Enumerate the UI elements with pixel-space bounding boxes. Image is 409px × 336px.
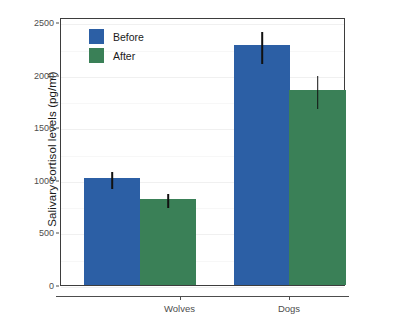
plot-panel: Before After — [60, 18, 345, 286]
x-tick-label-wolves: Wolves — [164, 303, 195, 314]
gridline — [61, 24, 344, 25]
x-tick-label-dogs: Dogs — [278, 303, 300, 314]
y-tick-label: 1000 — [24, 176, 54, 186]
x-tick-mark — [289, 296, 290, 300]
legend-item-after[interactable]: After — [89, 46, 144, 65]
legend-label-after: After — [113, 50, 135, 62]
bar-chart: Salivary cortisol levels (pg/ml) 0500100… — [0, 0, 409, 336]
legend-label-before: Before — [113, 31, 144, 43]
error-bar-dogs-after — [317, 76, 319, 110]
y-tick-mark — [56, 286, 59, 287]
y-tick-mark — [56, 23, 59, 24]
error-bar-wolves-after — [167, 194, 169, 208]
y-axis-ticks: 05001000150020002500 — [22, 0, 54, 336]
bar-wolves-after — [140, 199, 196, 285]
y-tick-label: 2000 — [24, 71, 54, 81]
legend: Before After — [89, 27, 144, 65]
y-tick-mark — [56, 233, 59, 234]
bar-dogs-before — [234, 45, 290, 285]
gridline — [61, 287, 344, 288]
y-tick-label: 2500 — [24, 18, 54, 28]
gridline — [61, 77, 344, 78]
error-bar-wolves-before — [111, 172, 113, 189]
y-tick-label: 500 — [24, 228, 54, 238]
y-tick-mark — [56, 75, 59, 76]
x-axis-line — [56, 296, 349, 297]
legend-swatch-after — [89, 48, 104, 63]
legend-item-before[interactable]: Before — [89, 27, 144, 46]
y-tick-label: 1500 — [24, 123, 54, 133]
bar-wolves-before — [84, 178, 140, 285]
legend-swatch-before — [89, 29, 104, 44]
y-tick-label: 0 — [24, 281, 54, 291]
error-bar-dogs-before — [261, 32, 263, 64]
bar-dogs-after — [289, 90, 346, 285]
y-tick-mark — [56, 180, 59, 181]
y-tick-mark — [56, 128, 59, 129]
x-tick-mark — [180, 296, 181, 300]
